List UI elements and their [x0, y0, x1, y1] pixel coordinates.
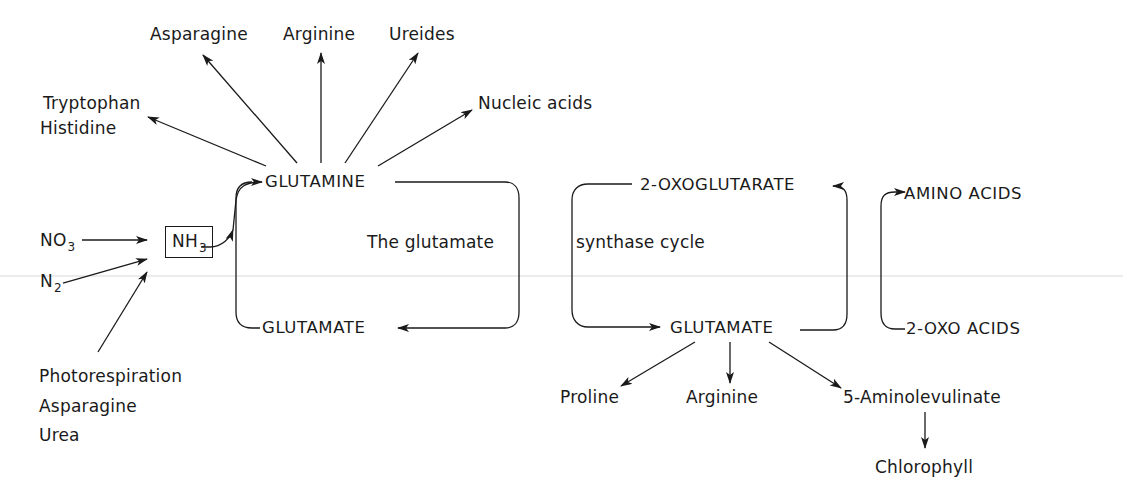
- right-cycle-left-loop: [572, 184, 660, 327]
- label-5-aminolevulinate: 5-Aminolevulinate: [843, 387, 1001, 407]
- label-photorespiration: Photorespiration: [39, 366, 182, 386]
- glutamine-to-glutamate-right-loop: [395, 182, 519, 328]
- label-2-oxo-acids: 2-OXO ACIDS: [906, 319, 1021, 339]
- label-no3: NO3: [40, 230, 75, 252]
- glutamate-to-oxoglutarate-loop: [800, 186, 847, 330]
- label-asparagine-source: Asparagine: [39, 396, 137, 416]
- arrow-sources-to-nh3: [98, 272, 147, 352]
- label-cycle-caption-right: synthase cycle: [576, 232, 705, 252]
- label-tryptophan: Tryptophan: [43, 93, 141, 113]
- label-chlorophyll: Chlorophyll: [875, 457, 973, 477]
- label-n2: N2: [40, 271, 62, 293]
- label-arginine-top: Arginine: [283, 24, 355, 44]
- arrow-glutamine-to-nucleic-acids: [378, 110, 472, 166]
- arrow-glutamine-to-asparagine: [203, 55, 297, 163]
- transamination-loop: [881, 192, 905, 329]
- arrow-glutamate-to-aminolevulinate: [769, 342, 841, 388]
- label-ureides: Ureides: [389, 24, 455, 44]
- ammonia-box: NH3: [165, 226, 213, 258]
- arrow-glutamate-to-proline: [621, 342, 695, 386]
- label-nh3: NH3: [172, 231, 207, 253]
- label-amino-acids: AMINO ACIDS: [904, 184, 1022, 204]
- label-proline: Proline: [560, 387, 619, 407]
- arrow-glutamine-to-tryptophan: [148, 117, 266, 166]
- arrow-glutamine-to-ureides: [345, 53, 418, 163]
- label-nucleic-acids: Nucleic acids: [478, 93, 592, 113]
- label-glutamate-right: GLUTAMATE: [670, 318, 773, 338]
- left-cycle-loop: [236, 182, 260, 328]
- label-histidine: Histidine: [40, 118, 116, 138]
- label-urea: Urea: [39, 425, 80, 445]
- label-2-oxoglutarate: 2-OXOGLUTARATE: [640, 175, 795, 195]
- label-cycle-caption-left: The glutamate: [367, 232, 494, 252]
- arrow-n2-to-nh3: [63, 259, 147, 283]
- label-glutamate-left: GLUTAMATE: [262, 318, 365, 338]
- label-glutamine: GLUTAMINE: [265, 172, 366, 192]
- label-asparagine-top: Asparagine: [150, 24, 248, 44]
- label-arginine-bottom: Arginine: [686, 387, 758, 407]
